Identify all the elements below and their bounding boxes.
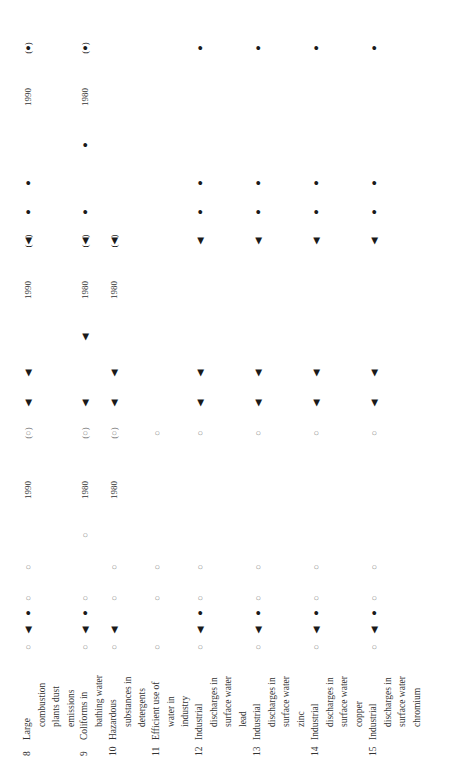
dot-icon: ●	[312, 180, 321, 185]
row-number: 15	[369, 747, 379, 757]
open-circle-icon: ○	[110, 564, 119, 569]
row-number: 10	[109, 747, 119, 757]
open-circle-icon: (○)	[110, 427, 119, 438]
open-circle-icon: (○)	[24, 427, 33, 438]
open-circle-icon: ○	[153, 564, 162, 569]
open-circle-icon: ○	[196, 595, 205, 600]
row-number: 8	[23, 751, 33, 756]
open-circle-icon: ○	[110, 644, 119, 649]
dot-icon: ●	[196, 610, 205, 615]
open-circle-icon: ○	[24, 644, 33, 649]
triangle-icon: ◀	[312, 238, 321, 245]
open-circle-icon: ○	[254, 564, 263, 569]
dot-icon: ●	[254, 610, 263, 615]
triangle-icon: ◀	[81, 334, 90, 341]
open-circle-icon: ○	[370, 595, 379, 600]
open-circle-icon: ○	[110, 595, 119, 600]
dot-icon: ●	[24, 209, 33, 214]
triangle-icon: ◀	[196, 238, 205, 245]
triangle-icon: ◀	[110, 370, 119, 377]
row-label-line: surface water	[224, 676, 234, 727]
open-circle-icon: ○	[196, 644, 205, 649]
row-label-line: copper	[355, 701, 365, 727]
row-label-line: Hazardous	[109, 699, 119, 740]
triangle-icon: ◀	[110, 400, 119, 407]
dot-icon: ●	[254, 180, 263, 185]
open-circle-icon: ○	[81, 532, 90, 537]
row-label-line: combustion	[38, 683, 48, 727]
row-number: 12	[195, 747, 205, 757]
open-circle-icon: ○	[24, 595, 33, 600]
open-circle-icon: ○	[312, 430, 321, 435]
open-circle-icon: ○	[81, 644, 90, 649]
row-label-line: chromium	[413, 688, 423, 727]
open-circle-icon: ○	[153, 430, 162, 435]
triangle-icon: ◀	[196, 370, 205, 377]
dot-icon: (●)	[24, 42, 33, 53]
open-circle-icon: ○	[153, 595, 162, 600]
year-cell: 1990	[24, 281, 33, 299]
dot-icon: ●	[312, 209, 321, 214]
open-circle-icon: ○	[81, 595, 90, 600]
row-number: 13	[253, 747, 263, 757]
triangle-icon: ◀	[312, 370, 321, 377]
open-circle-icon: ○	[24, 564, 33, 569]
dot-icon: ●	[81, 209, 90, 214]
dot-icon: ●	[196, 180, 205, 185]
triangle-icon: ◀	[254, 400, 263, 407]
dot-icon: (●)	[81, 42, 90, 53]
row-label-line: bathing water	[95, 675, 105, 727]
row-number: 9	[80, 751, 90, 756]
dot-icon: ●	[370, 45, 379, 50]
dot-icon: ●	[254, 45, 263, 50]
year-cell: 1990	[24, 88, 33, 106]
year-cell: 1980	[81, 88, 90, 106]
year-cell: 1980	[110, 481, 119, 499]
triangle-icon: ◀	[370, 627, 379, 634]
dot-icon: ●	[254, 209, 263, 214]
row-label-line: substances in	[124, 677, 134, 727]
open-circle-icon: ○	[312, 564, 321, 569]
dot-icon: ●	[24, 180, 33, 185]
dot-icon: ●	[196, 209, 205, 214]
triangle-icon: ◀	[370, 400, 379, 407]
triangle-icon: ◀	[24, 627, 33, 634]
row-label-line: Industrial	[311, 704, 321, 740]
row-label-line: surface water	[340, 676, 350, 727]
open-circle-icon: ○	[153, 644, 162, 649]
row-label-line: industry	[181, 696, 191, 727]
rotated-table-page: 8Largecombustionplants dustemissions○◀●○…	[0, 0, 449, 771]
open-circle-icon: ○	[370, 430, 379, 435]
dot-icon: ●	[370, 180, 379, 185]
row-label-line: Industrial	[195, 704, 205, 740]
dot-icon: ●	[196, 45, 205, 50]
open-circle-icon: ○	[312, 644, 321, 649]
row-label-line: zinc	[297, 711, 307, 727]
row-label-line: discharges in	[326, 677, 336, 727]
dot-icon: ●	[312, 45, 321, 50]
triangle-icon: (◀)	[110, 235, 119, 248]
open-circle-icon: (○)	[81, 427, 90, 438]
triangle-icon: ◀	[370, 238, 379, 245]
open-circle-icon: ○	[196, 430, 205, 435]
triangle-icon: (◀)	[81, 235, 90, 248]
triangle-icon: ◀	[196, 400, 205, 407]
row-label-line: discharges in	[384, 677, 394, 727]
row-label-line: surface water	[398, 676, 408, 727]
row-number: 11	[152, 747, 162, 756]
triangle-icon: ◀	[254, 627, 263, 634]
dot-icon: ●	[81, 142, 90, 147]
dot-icon: ●	[370, 209, 379, 214]
year-cell: 1990	[24, 481, 33, 499]
row-label-line: Efficient use of	[152, 682, 162, 740]
row-label-line: Coliforms in	[80, 692, 90, 740]
row-label-line: water in	[167, 696, 177, 727]
open-circle-icon: ○	[254, 644, 263, 649]
open-circle-icon: ○	[312, 595, 321, 600]
triangle-icon: (◀)	[24, 235, 33, 248]
open-circle-icon: ○	[370, 564, 379, 569]
row-label-line: lead	[239, 711, 249, 727]
year-cell: 1980	[81, 481, 90, 499]
open-circle-icon: ○	[196, 564, 205, 569]
dot-icon: ●	[370, 610, 379, 615]
